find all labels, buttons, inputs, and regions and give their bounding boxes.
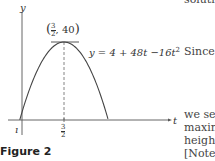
tick-denominator: 2 — [61, 132, 65, 139]
equation-label: y = 4 + 48t −16t2 — [89, 44, 180, 59]
equation-text: y = 4 + 48t −16t — [89, 47, 176, 58]
origin-mark: ı — [15, 123, 18, 136]
vertex-y: , 40 — [56, 24, 75, 35]
t-axis-arrow — [168, 119, 172, 122]
body-text-since: Since — [184, 45, 215, 58]
body-text-top: solutio — [184, 0, 215, 6]
equation-exponent: 2 — [176, 46, 180, 54]
figure-plot — [0, 0, 215, 161]
body-text-line1: we se — [184, 108, 215, 121]
body-text-line4: [Note — [184, 147, 215, 160]
figure-caption: Figure 2 — [0, 145, 51, 158]
t-axis-label: t — [173, 114, 177, 127]
y-axis-label: y — [20, 1, 26, 14]
tick-label-3-2: 3 2 — [61, 124, 65, 139]
vertex-label: (32, 40) — [46, 22, 80, 38]
body-text-line2: maxin — [184, 121, 215, 134]
paren-close: ) — [75, 21, 80, 36]
body-text-line3: heigh — [184, 134, 215, 147]
